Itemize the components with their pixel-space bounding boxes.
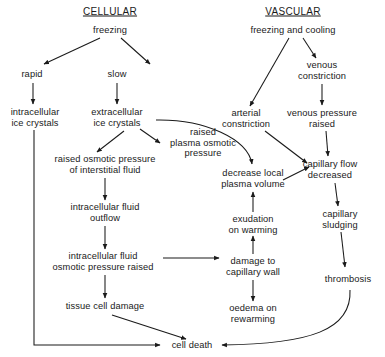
node-exudation-on-warming: exudation on warming <box>229 214 278 235</box>
edge-extracellular-to-raised-plasma <box>140 129 160 143</box>
edge-freezing-to-rapid <box>44 38 100 64</box>
node-intracellular-fluid-outflow: intracellular fluid outflow <box>71 202 140 223</box>
edge-extracellular-to-interstitial <box>97 131 124 152</box>
section-heading-vascular: VASCULAR <box>265 6 321 17</box>
node-intracellular-fluid-osmotic-pressure-raised: intracellular fluid osmotic pressure rai… <box>53 251 154 272</box>
node-raised-osmotic-pressure-interstitial-fluid: raised osmotic pressure of interstitial … <box>55 154 156 175</box>
node-capillary-flow-decreased: capillary flow decreased <box>303 159 358 180</box>
node-venous-pressure-raised: venous pressure raised <box>287 108 357 129</box>
section-heading-cellular: CELLULAR <box>83 6 137 17</box>
flowchart-diagram: CELLULAR VASCULAR freezing rapid slow in… <box>0 0 385 357</box>
node-intracellular-ice-crystals: intracellular ice crystals <box>11 107 60 128</box>
node-freezing-and-cooling: freezing and cooling <box>250 25 335 36</box>
node-damage-to-capillary-wall: damage to capillary wall <box>226 256 280 277</box>
node-oedema-on-rewarming: oedema on rewarming <box>229 303 276 324</box>
node-venous-constriction: venous constriction <box>298 60 346 81</box>
edge-venous-pressure-to-capillary-flow <box>326 131 328 156</box>
node-extracellular-ice-crystals: extracellular ice crystals <box>91 107 142 128</box>
edge-freezing-to-slow <box>121 38 150 64</box>
edge-capillary-flow-to-sludging <box>335 183 338 206</box>
edge-arterial-to-capillary-flow <box>265 131 307 163</box>
node-rapid: rapid <box>21 69 42 80</box>
node-capillary-sludging: capillary sludging <box>322 209 357 230</box>
edge-freezing-cooling-to-venous <box>303 38 316 58</box>
edge-sludging-to-thrombosis <box>341 232 345 267</box>
node-slow: slow <box>108 69 127 80</box>
edge-freezing-cooling-to-arterial <box>250 38 289 106</box>
node-cell-death: cell death <box>172 340 213 351</box>
node-tissue-cell-damage: tissue cell damage <box>66 301 145 312</box>
node-arterial-constriction: arterial constriction <box>222 108 270 129</box>
node-decrease-local-plasma-volume: decrease local plasma volume <box>221 168 285 189</box>
node-freezing: freezing <box>93 25 127 36</box>
edge-tissue-damage-to-cell-death <box>112 315 186 339</box>
node-raised-plasma-osmotic-pressure: raised plasma osmotic pressure <box>170 127 236 159</box>
node-thrombosis: thrombosis <box>325 274 371 285</box>
